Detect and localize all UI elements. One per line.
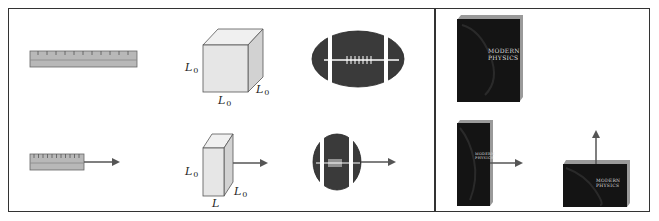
football-at-rest <box>312 31 404 87</box>
cube-rest-height-label: L0 <box>185 62 198 75</box>
book-rest-title: MODERN PHYSICS <box>488 47 520 61</box>
ruler-at-rest <box>30 51 137 67</box>
ruler-moving <box>30 154 84 170</box>
book-moving-horizontal <box>457 120 493 206</box>
cube-moving-height-label: L0 <box>185 166 198 179</box>
cube-moving <box>203 134 233 196</box>
book-horizontal-title: MODERN PHYSICS <box>475 152 494 160</box>
diagram-canvas <box>0 0 659 221</box>
cube-at-rest <box>203 29 263 92</box>
football-moving <box>313 134 361 190</box>
cube-moving-width-label: L <box>212 198 220 211</box>
cube-rest-depth-label: L0 <box>256 84 269 97</box>
cube-moving-depth-label: L0 <box>234 186 247 199</box>
book-vertical-title: MODERN PHYSICS <box>596 178 620 189</box>
cube-rest-width-label: L0 <box>218 95 231 108</box>
